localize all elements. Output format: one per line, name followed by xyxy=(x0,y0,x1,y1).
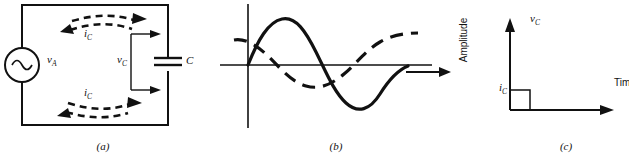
right-angle-marker-icon xyxy=(510,90,530,110)
current-arrows-bottom xyxy=(66,103,130,117)
phasor-ic-arrowhead-icon xyxy=(505,18,515,32)
panel-circuit-diagram: vA C vC iC iC xyxy=(0,0,210,162)
current-arrowhead-top-right-icon xyxy=(132,13,147,24)
waveform-vc-curve xyxy=(248,19,408,110)
caption-a: (a) xyxy=(83,140,123,152)
voltage-arrow-top-icon xyxy=(150,30,161,38)
capacitor-icon xyxy=(154,58,182,65)
voltage-bracket-vc xyxy=(131,34,150,90)
figure-capacitive-phase-relationship: vA C vC iC iC Amplitude vC iC Time xyxy=(0,0,629,162)
caption-b: (b) xyxy=(316,140,356,152)
waveform-axes xyxy=(210,0,460,140)
label-current-top: iC xyxy=(84,28,92,42)
current-arrowhead-bottom-left-icon xyxy=(57,108,71,118)
label-current-bottom: iC xyxy=(84,87,92,101)
label-capacitor: C xyxy=(186,55,193,66)
panel-waveform-plot: Amplitude vC iC Time xyxy=(210,0,460,162)
label-source-voltage: vA xyxy=(47,54,56,68)
caption-c: (c) xyxy=(546,140,586,152)
current-arrows-top xyxy=(70,16,134,30)
panel-phasor-diagram: IC vC +90° xyxy=(460,0,629,162)
voltage-arrow-bottom-icon xyxy=(150,86,161,94)
phasor-vc-arrowhead-icon xyxy=(600,105,614,115)
current-arrowhead-bottom-right-icon xyxy=(127,97,142,108)
circuit-schematic xyxy=(0,0,210,140)
label-capacitor-voltage: vC xyxy=(117,54,127,68)
phasor-axes xyxy=(460,0,629,140)
time-arrowhead-icon xyxy=(439,67,451,77)
current-arrowhead-top-left-icon xyxy=(60,24,74,34)
